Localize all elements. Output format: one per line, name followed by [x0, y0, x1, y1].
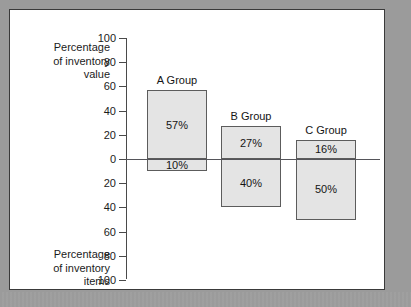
y-axis-tick-label: 20	[80, 130, 116, 141]
bar-segment-items: 50%	[296, 159, 356, 220]
y-axis-tick-label-text: 0	[86, 154, 116, 165]
y-axis-tick-label: 0	[80, 154, 116, 165]
bar-items-label: 10%	[148, 160, 206, 171]
bar-value-label: 16%	[297, 144, 355, 155]
plot-area: Percentage of inventory value Percentage…	[10, 10, 386, 291]
y-axis-tick	[119, 62, 126, 63]
y-axis-tick-label: 40	[80, 202, 116, 213]
y-axis-tick-label-text: 80	[86, 251, 116, 262]
y-axis-tick-label-text: 100	[86, 275, 116, 286]
bar-value-label: 57%	[148, 120, 206, 131]
y-axis-tick-label: 20	[80, 178, 116, 189]
y-axis-tick-label-text: 20	[86, 178, 116, 189]
bar-group-caption: C Group	[281, 124, 371, 136]
y-axis-tick	[119, 159, 126, 160]
bar-group-caption: A Group	[132, 74, 222, 86]
y-axis-tick-label: 40	[80, 106, 116, 117]
bar-segment-value: 16%	[296, 140, 356, 159]
y-axis-tick-label-text: 20	[86, 130, 116, 141]
y-axis-tick-label-text: 100	[86, 33, 116, 44]
y-axis-tick	[119, 183, 126, 184]
bar-segment-items: 10%	[147, 159, 207, 171]
bar-items-label: 40%	[222, 178, 280, 189]
bar-segment-items: 40%	[221, 159, 281, 207]
y-axis-tick-label: 60	[80, 227, 116, 238]
bar-group-caption: B Group	[206, 110, 296, 122]
y-axis-tick-label: 100	[80, 275, 116, 286]
y-axis-tick	[119, 135, 126, 136]
bar-segment-value: 27%	[221, 126, 281, 159]
chart-panel: Percentage of inventory value Percentage…	[9, 9, 385, 290]
y-axis-tick	[119, 232, 126, 233]
y-axis-tick	[119, 111, 126, 112]
y-axis-tick	[119, 38, 126, 39]
y-axis-tick	[119, 207, 126, 208]
y-axis-tick-label: 80	[80, 57, 116, 68]
y-axis-tick-label: 100	[80, 33, 116, 44]
y-axis-tick	[119, 280, 126, 281]
y-axis-tick-label-text: 80	[86, 57, 116, 68]
bar-items-label: 50%	[297, 184, 355, 195]
zero-baseline	[126, 159, 380, 160]
y-axis-tick	[119, 256, 126, 257]
axis-title-items-line2: of inventory	[28, 262, 110, 276]
axis-title-value-line3: value	[28, 68, 110, 82]
mat-texture	[0, 292, 411, 307]
y-axis-tick-label-text: 60	[86, 227, 116, 238]
y-axis-tick	[119, 86, 126, 87]
y-axis-tick-label-text: 40	[86, 106, 116, 117]
y-axis-tick-label: 80	[80, 251, 116, 262]
bar-value-label: 27%	[222, 138, 280, 149]
y-axis-tick-label-text: 40	[86, 202, 116, 213]
figure-frame: Percentage of inventory value Percentage…	[0, 0, 411, 307]
bar-segment-value: 57%	[147, 90, 207, 159]
y-axis-tick-label: 60	[80, 81, 116, 92]
y-axis-tick-label-text: 60	[86, 81, 116, 92]
